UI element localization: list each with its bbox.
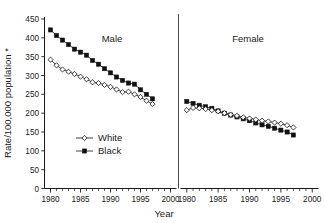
marker-open-diamond — [96, 80, 101, 85]
x-tick-label: 1990 — [101, 195, 120, 204]
marker-filled-square — [126, 81, 130, 85]
marker-filled-square — [291, 133, 295, 137]
y-tick-label: 450 — [25, 15, 39, 24]
marker-open-diamond — [278, 121, 283, 126]
marker-open-diamond — [120, 89, 125, 94]
marker-open-diamond — [78, 74, 83, 79]
marker-filled-square — [138, 88, 142, 92]
y-axis: 050100150200250300350400450 — [25, 15, 44, 194]
y-tick-label: 100 — [25, 147, 39, 156]
marker-open-diamond — [132, 92, 137, 97]
marker-open-diamond — [272, 120, 277, 125]
y-axis-title: Rate/100,000 population * — [2, 48, 13, 158]
marker-open-diamond — [66, 69, 71, 74]
marker-filled-square — [60, 38, 64, 42]
marker-open-diamond — [72, 71, 77, 76]
marker-filled-square — [285, 130, 289, 134]
y-tick-label: 150 — [25, 128, 39, 137]
marker-filled-square — [144, 92, 148, 96]
series-female-black — [185, 99, 296, 137]
legend-label: White — [98, 132, 122, 143]
x-tick-label: 1990 — [240, 195, 259, 204]
y-tick-label: 0 — [34, 185, 39, 194]
chart-legend[interactable]: WhiteBlack — [76, 132, 122, 156]
y-tick-label: 200 — [25, 109, 39, 118]
marker-open-diamond — [266, 119, 271, 124]
marker-open-diamond — [144, 98, 149, 103]
marker-filled-square — [150, 97, 154, 101]
marker-open-diamond — [114, 87, 119, 92]
marker-filled-square — [120, 78, 124, 82]
marker-open-diamond — [291, 125, 296, 130]
marker-filled-square — [48, 28, 52, 32]
y-tick-label: 50 — [30, 166, 40, 175]
marker-filled-square — [96, 62, 100, 66]
marker-filled-square — [108, 71, 112, 75]
y-tick-label: 350 — [25, 53, 39, 62]
marker-open-diamond — [102, 82, 107, 87]
marker-filled-square — [90, 58, 94, 62]
marker-filled-square — [279, 128, 283, 132]
marker-open-diamond — [138, 94, 143, 99]
marker-open-diamond — [184, 108, 189, 113]
x-tick-label: 1980 — [41, 195, 60, 204]
chart-figure: 050100150200250300350400450 198019851990… — [0, 0, 325, 223]
panel-titles: MaleFemale — [102, 33, 264, 44]
panel-female — [184, 99, 296, 137]
marker-filled-square — [66, 43, 70, 47]
x-tick-label: 1980 — [178, 195, 197, 204]
x-tick-label: 1985 — [71, 195, 90, 204]
marker-open-diamond — [60, 67, 65, 72]
marker-open-diamond — [190, 105, 195, 110]
marker-filled-square — [132, 82, 136, 86]
marker-filled-square — [272, 126, 276, 130]
series-line — [187, 101, 294, 135]
legend-item-white[interactable]: White — [76, 132, 122, 143]
rate-by-year-line-chart: 050100150200250300350400450 198019851990… — [0, 0, 325, 223]
marker-filled-square — [266, 124, 270, 128]
marker-filled-square — [54, 33, 58, 37]
legend-marker-filled-square — [82, 149, 86, 153]
legend-item-black[interactable]: Black — [76, 145, 121, 156]
legend-marker-open-diamond — [82, 135, 87, 140]
marker-open-diamond — [90, 80, 95, 85]
legend-label: Black — [98, 145, 121, 156]
marker-filled-square — [185, 99, 189, 103]
series-male-white — [48, 57, 155, 107]
marker-open-diamond — [150, 102, 155, 107]
marker-filled-square — [72, 47, 76, 51]
panel-title-male: Male — [102, 33, 123, 44]
marker-filled-square — [102, 67, 106, 71]
x-tick-label: 2000 — [303, 195, 322, 204]
y-tick-label: 400 — [25, 34, 39, 43]
marker-open-diamond — [285, 123, 290, 128]
x-axis: 1980198519901995200019801985199019952000 — [41, 189, 321, 204]
panel-title-female: Female — [232, 33, 264, 44]
y-tick-label: 300 — [25, 72, 39, 81]
marker-filled-square — [84, 53, 88, 57]
y-tick-label: 250 — [25, 90, 39, 99]
data-series-layer — [48, 28, 296, 137]
x-tick-label: 1995 — [272, 195, 291, 204]
marker-open-diamond — [108, 84, 113, 89]
marker-filled-square — [78, 50, 82, 54]
marker-open-diamond — [126, 89, 131, 94]
marker-open-diamond — [84, 77, 89, 82]
marker-filled-square — [114, 75, 118, 79]
x-tick-label: 1995 — [131, 195, 150, 204]
x-axis-title: Year — [154, 208, 173, 219]
x-tick-label: 1985 — [209, 195, 228, 204]
